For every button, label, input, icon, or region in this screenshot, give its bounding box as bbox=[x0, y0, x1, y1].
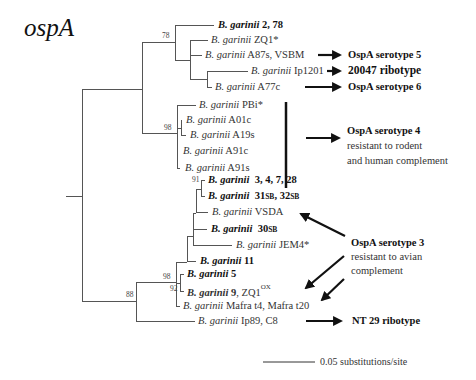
annotation-ribotype20047: 20047 ribotype bbox=[348, 63, 421, 78]
taxon-label: B. garinii PBi* bbox=[199, 100, 263, 111]
annotation-serotype4: OspA serotype 4 resistant to rodent and … bbox=[347, 123, 448, 168]
taxon-label: B. garinii ZQ1* bbox=[211, 35, 278, 46]
taxon-label: B. garinii A19s bbox=[190, 130, 254, 141]
scale-bar-label: 0.05 substitutions/site bbox=[320, 356, 407, 367]
bootstrap-92: 92 bbox=[170, 285, 178, 293]
taxon-label: B. garinii VSDA bbox=[212, 207, 283, 218]
taxon-label: B. garinii A77c bbox=[215, 82, 280, 93]
taxon-label: B. garinii A91s bbox=[185, 163, 249, 174]
taxon-label: B. garinii JEM4* bbox=[236, 240, 309, 251]
taxon-label: B. garinii A01c bbox=[186, 115, 251, 126]
bootstrap-98-upper: 98 bbox=[164, 124, 172, 132]
taxon-label: B. garinii Ip1201 bbox=[251, 66, 324, 77]
taxon-label: B. garinii 2, 78 bbox=[218, 20, 283, 31]
annotation-serotype5: OspA serotype 5 bbox=[348, 47, 421, 62]
arrow-serotype3-mafra bbox=[322, 279, 344, 300]
bootstrap-91: 91 bbox=[192, 176, 200, 184]
annotation-serotype6: OspA serotype 6 bbox=[348, 79, 421, 94]
annotation-serotype3: OspA serotype 3 resistant to avian compl… bbox=[351, 236, 424, 278]
bootstrap-88: 88 bbox=[126, 291, 134, 299]
arrow-serotype3-vsda bbox=[301, 214, 345, 236]
annotation-nt29: NT 29 ribotype bbox=[352, 313, 420, 328]
taxon-label: B. garinii 30SB bbox=[211, 224, 277, 235]
taxon-label: B. garinii Mafra t4, Mafra t20 bbox=[183, 301, 309, 312]
taxon-label: B. garinii 31SB, 32SB bbox=[208, 191, 299, 202]
taxon-label: B. garinii 5 bbox=[187, 269, 236, 280]
bootstrap-78: 78 bbox=[162, 32, 170, 40]
taxon-label: B. garinii A87s, VSBM bbox=[205, 50, 304, 61]
taxon-label: B. garinii 3, 4, 7, 28 bbox=[208, 175, 297, 186]
taxon-label: B. garinii 11 bbox=[200, 256, 254, 267]
taxon-label: B. garinii Ip89, C8 bbox=[198, 316, 278, 327]
bootstrap-98-lower: 98 bbox=[163, 273, 171, 281]
taxon-label: B. garinii 9, ZQ1OX bbox=[187, 286, 271, 298]
taxon-label: B. garinii A91c bbox=[183, 146, 248, 157]
